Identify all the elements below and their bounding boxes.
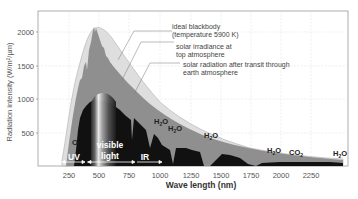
x-tick-750: 750: [123, 171, 136, 180]
x-tick-2250: 2250: [303, 171, 320, 180]
annotation-surface-1: solar radiation after transit through: [183, 61, 290, 69]
solar-spectrum-chart: 2000 1500 1000 500 Radiation intensity (…: [0, 0, 358, 199]
y-tick-1500: 1500: [17, 62, 34, 71]
band-uv-label: UV: [68, 152, 80, 162]
annotation-blackbody-2: (temperature 5900 K): [172, 31, 239, 39]
y-tick-500: 500: [21, 129, 34, 138]
band-ir-label: IR: [141, 152, 150, 162]
x-tick-1750: 1750: [243, 171, 260, 180]
x-axis: 250 500 750 1000 1250 1500 1750 2000 225…: [63, 171, 320, 190]
band-visible-label: visible: [97, 140, 124, 150]
annotation-surface-2: earth atmosphere: [183, 69, 238, 77]
annotation-top-1: solar irradiance at: [176, 43, 232, 50]
y-tick-1000: 1000: [17, 95, 34, 104]
y-axis-label: Radiation intensity (W/m²/µm): [5, 42, 14, 141]
y-axis: 2000 1500 1000 500 Radiation intensity (…: [5, 28, 38, 141]
x-tick-2000: 2000: [273, 171, 290, 180]
x-tick-500: 500: [93, 171, 106, 180]
y-tick-2000: 2000: [17, 28, 34, 37]
x-tick-250: 250: [63, 171, 76, 180]
band-visible-label-2: light: [101, 151, 119, 161]
x-axis-label: Wave length (nm): [166, 180, 237, 190]
label-o3: O: [72, 138, 78, 147]
x-tick-1250: 1250: [183, 171, 200, 180]
x-tick-1500: 1500: [213, 171, 230, 180]
annotation-top-2: top atmosphere: [176, 51, 225, 59]
x-tick-1000: 1000: [152, 171, 169, 180]
annotation-blackbody-1: ideal blackbody: [172, 23, 221, 31]
